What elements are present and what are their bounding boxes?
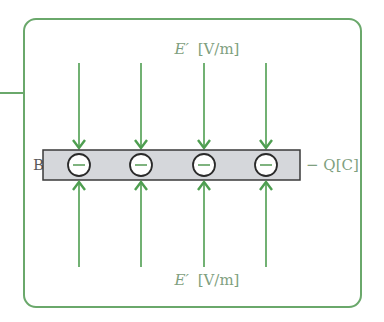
negative-charge-icon bbox=[68, 154, 90, 176]
top-field-label: E′ [V/m] bbox=[174, 40, 240, 58]
bottom-field-lines bbox=[73, 182, 272, 267]
negative-charge-icon bbox=[255, 154, 277, 176]
negative-charge-icon bbox=[193, 154, 215, 176]
plate-charge-label: − Q[C] bbox=[306, 156, 359, 174]
bottom-field-label: E′ [V/m] bbox=[174, 271, 240, 289]
top-field-lines bbox=[73, 63, 272, 148]
negative-charge-icon bbox=[130, 154, 152, 176]
field-diagram: E′ [V/m] B − Q[C] bbox=[0, 0, 384, 322]
